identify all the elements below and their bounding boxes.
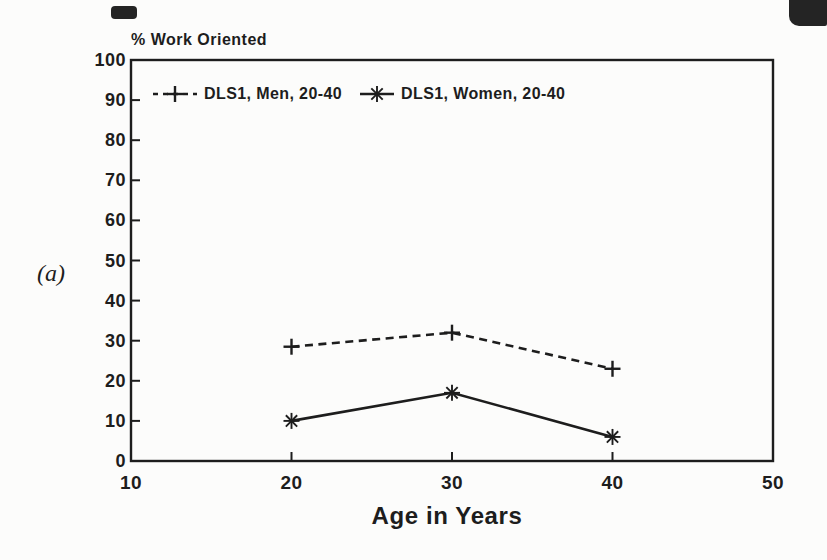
x-axis-label: Age in Years (297, 502, 597, 530)
x-tick-label: 40 (588, 472, 638, 494)
y-tick-label: 40 (60, 290, 126, 312)
legend-label-men: DLS1, Men, 20-40 (204, 85, 342, 103)
y-tick-label: 70 (60, 169, 126, 191)
y-tick-label: 30 (60, 330, 126, 352)
y-tick-label: 10 (60, 410, 126, 432)
x-tick-label: 10 (106, 472, 156, 494)
x-tick-label: 20 (267, 472, 317, 494)
scanned-page: (a) % Work Oriented DLS1, Men, 20-40 DLS… (0, 0, 827, 560)
y-tick-label: 80 (60, 129, 126, 151)
legend-item-women: DLS1, Women, 20-40 (360, 85, 565, 103)
legend-label-women: DLS1, Women, 20-40 (401, 85, 565, 103)
dashed-plus-marker-icon (153, 85, 197, 103)
legend-item-men: DLS1, Men, 20-40 (153, 85, 342, 103)
x-tick-label: 30 (427, 472, 477, 494)
y-tick-label: 60 (60, 209, 126, 231)
y-tick-label: 0 (60, 450, 126, 472)
x-tick-label: 50 (748, 472, 798, 494)
y-tick-label: 90 (60, 89, 126, 111)
y-tick-label: 100 (60, 49, 126, 71)
solid-asterisk-marker-icon (360, 85, 394, 103)
y-tick-label: 20 (60, 370, 126, 392)
y-tick-label: 50 (60, 250, 126, 272)
